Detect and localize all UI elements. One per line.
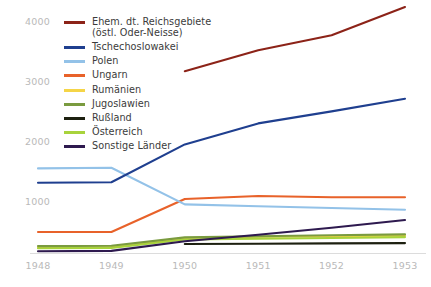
series-line xyxy=(38,168,405,210)
legend-item[interactable]: Sonstige Länder xyxy=(64,140,211,153)
legend-item-label: Rußland xyxy=(92,112,132,123)
legend-item-label: Sonstige Länder xyxy=(92,140,171,151)
legend-item[interactable]: Jugoslawien xyxy=(64,98,211,111)
x-axis-tick-label: 1953 xyxy=(382,260,428,271)
legend-item-label: Ungarn xyxy=(92,69,128,80)
series-line xyxy=(185,243,405,244)
x-axis-tick-label: 1948 xyxy=(15,260,61,271)
legend-item[interactable]: Österreich xyxy=(64,126,211,139)
x-axis-tick-label: 1950 xyxy=(162,260,208,271)
series-line xyxy=(185,7,405,71)
x-axis-tick-label: 1951 xyxy=(235,260,281,271)
x-axis-line xyxy=(30,253,426,254)
legend-item-label: Tschechoslowakei xyxy=(92,41,178,52)
legend-item[interactable]: Polen xyxy=(64,55,211,68)
legend-item[interactable]: Ehem. dt. Reichsgebiete (östl. Oder-Neis… xyxy=(64,16,211,40)
legend-item-label: Polen xyxy=(92,55,118,66)
legend-item[interactable]: Rumänien xyxy=(64,84,211,97)
legend-item-label: Österreich xyxy=(92,126,143,137)
legend-item-label: Ehem. dt. Reichsgebiete (östl. Oder-Neis… xyxy=(92,16,211,39)
legend-color-swatch xyxy=(64,117,85,120)
legend-item[interactable]: Tschechoslowakei xyxy=(64,41,211,54)
legend-color-swatch xyxy=(64,103,85,106)
x-axis-tick-label: 1949 xyxy=(88,260,134,271)
legend-color-swatch xyxy=(64,74,85,77)
legend-color-swatch xyxy=(64,46,85,49)
legend-color-swatch xyxy=(64,89,85,92)
legend-item-label: Jugoslawien xyxy=(92,98,150,109)
legend-color-swatch xyxy=(64,21,85,24)
chart-legend: Ehem. dt. Reichsgebiete (östl. Oder-Neis… xyxy=(64,16,211,155)
legend-item[interactable]: Ungarn xyxy=(64,69,211,82)
legend-color-swatch xyxy=(64,131,85,134)
legend-item[interactable]: Rußland xyxy=(64,112,211,125)
legend-color-swatch xyxy=(64,60,85,63)
line-chart: 4000300020001000 19481949195019511952195… xyxy=(0,0,431,287)
legend-item-label: Rumänien xyxy=(92,84,141,95)
x-axis-tick-label: 1952 xyxy=(309,260,355,271)
legend-color-swatch xyxy=(64,145,85,148)
